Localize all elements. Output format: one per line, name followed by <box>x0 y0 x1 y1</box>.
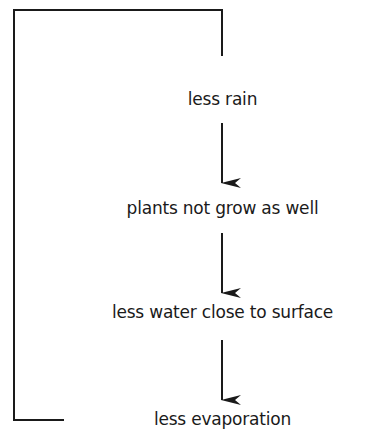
node-plants-not-grow: plants not grow as well <box>0 198 370 218</box>
node-less-water: less water close to surface <box>0 302 370 322</box>
node-less-evaporation: less evaporation <box>0 409 370 429</box>
node-less-rain: less rain <box>0 89 370 109</box>
diagram-connectors <box>0 0 370 444</box>
